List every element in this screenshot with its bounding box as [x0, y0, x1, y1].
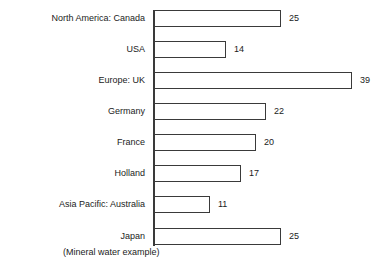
horizontal-bar-chart: North America: Canada 25 USA 14 Europe: … — [0, 0, 384, 264]
bar-france — [154, 134, 256, 151]
bar-row: France 20 — [0, 134, 384, 151]
bar-value-label: 25 — [289, 10, 299, 27]
bar-value-label: 14 — [234, 41, 244, 58]
bar-row: North America: Canada 25 — [0, 10, 384, 27]
bar-row: USA 14 — [0, 41, 384, 58]
bar-value-label: 20 — [264, 134, 274, 151]
category-label: France — [117, 134, 145, 151]
bar-row: Holland 17 — [0, 165, 384, 182]
bar-value-label: 25 — [289, 228, 299, 245]
bar-japan — [154, 228, 281, 245]
bar-australia — [154, 196, 210, 213]
bar-value-label: 11 — [218, 196, 227, 213]
bar-uk — [154, 72, 352, 89]
bar-row: Asia Pacific: Australia 11 — [0, 196, 384, 213]
bar-value-label: 22 — [274, 103, 284, 120]
category-label: Germany — [108, 103, 145, 120]
bar-usa — [154, 41, 226, 58]
bar-holland — [154, 165, 241, 182]
category-label: Asia Pacific: Australia — [59, 196, 145, 213]
bar-row: Europe: UK 39 — [0, 72, 384, 89]
bar-row: Japan 25 — [0, 228, 384, 245]
chart-caption: (Mineral water example) — [63, 247, 160, 257]
category-label: North America: Canada — [51, 10, 145, 27]
bar-germany — [154, 103, 266, 120]
category-label: USA — [126, 41, 145, 58]
bar-value-label: 39 — [360, 72, 370, 89]
category-label: Japan — [120, 228, 145, 245]
category-label: Europe: UK — [98, 72, 145, 89]
category-label: Holland — [114, 165, 145, 182]
bar-row: Germany 22 — [0, 103, 384, 120]
bar-canada — [154, 10, 281, 27]
bar-value-label: 17 — [249, 165, 259, 182]
